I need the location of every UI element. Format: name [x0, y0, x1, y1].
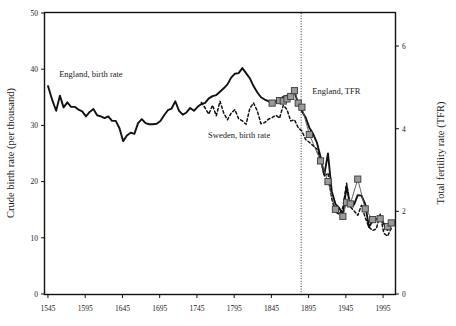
x-tick-label-1845: 1845: [264, 304, 279, 313]
series-line-1: [201, 101, 391, 236]
y-axis-left-ticks: 01020304050: [31, 9, 46, 299]
data-point-marker: [388, 220, 394, 226]
x-tick-label-1545: 1545: [40, 304, 55, 313]
data-point-marker: [291, 88, 297, 94]
chart-figure: 1545159516451695174517951845189519451995…: [0, 0, 456, 326]
y-axis-right-title: Total fertility rate (TFR): [435, 101, 447, 204]
data-point-marker: [377, 216, 383, 222]
data-point-marker: [288, 93, 294, 99]
data-point-marker: [325, 179, 331, 185]
data-point-marker: [306, 131, 312, 137]
x-tick-label-1695: 1695: [152, 304, 167, 313]
x-tick-label-1995: 1995: [376, 304, 391, 313]
data-point-marker: [355, 176, 361, 182]
birth-rate-fertility-chart: 1545159516451695174517951845189519451995…: [0, 0, 456, 326]
data-point-marker: [362, 206, 368, 212]
series-2: [269, 88, 394, 230]
y-tick-label-0: 0: [34, 290, 38, 299]
y-axis-left-title: Crude birth rate (per thousand): [5, 87, 17, 218]
data-point-marker: [370, 217, 376, 223]
data-point-marker: [332, 206, 338, 212]
x-tick-label-1795: 1795: [227, 304, 242, 313]
data-point-marker: [299, 104, 305, 110]
x-tick-label-1945: 1945: [338, 304, 353, 313]
y2-tick-label-6: 6: [402, 42, 406, 51]
y2-tick-label-4: 4: [402, 125, 406, 134]
y2-tick-label-2: 2: [402, 207, 406, 216]
data-point-marker: [347, 201, 353, 207]
x-tick-label-1895: 1895: [301, 304, 316, 313]
england-birth-rate-label: England, birth rate: [59, 69, 123, 79]
series-line-2: [272, 91, 391, 227]
sweden-birth-rate-label: Sweden, birth rate: [208, 130, 270, 140]
y-axis-right-ticks: 0246: [395, 42, 406, 299]
x-tick-label-1745: 1745: [189, 304, 204, 313]
data-point-marker: [317, 158, 323, 164]
x-tick-label-1595: 1595: [78, 304, 93, 313]
series-1: [201, 101, 391, 236]
y-tick-label-30: 30: [31, 121, 39, 130]
x-tick-label-1645: 1645: [115, 304, 130, 313]
x-axis-ticks: 1545159516451695174517951845189519451995: [40, 294, 390, 313]
y2-tick-label-0: 0: [402, 290, 406, 299]
data-point-marker: [269, 100, 275, 106]
y-tick-label-50: 50: [31, 9, 39, 18]
y-tick-label-10: 10: [31, 234, 39, 243]
series-annotations: England, birth rateSweden, birth rateEng…: [59, 69, 361, 140]
y-tick-label-40: 40: [31, 65, 39, 74]
y-tick-label-20: 20: [31, 177, 39, 186]
plot-area-frame: [45, 13, 396, 295]
england-tfr-label: England, TFR: [312, 86, 360, 96]
data-point-marker: [340, 213, 346, 219]
